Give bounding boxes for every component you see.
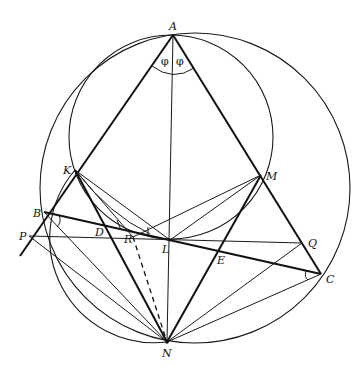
line-kn	[75, 170, 167, 342]
line-qn	[167, 243, 302, 342]
label-phi-right: φ	[176, 55, 184, 68]
line-bc	[44, 212, 321, 274]
line-bn	[44, 212, 167, 342]
angle-mark-b	[57, 215, 60, 227]
label-a: A	[168, 20, 177, 33]
label-q: Q	[308, 237, 317, 250]
label-c: C	[326, 273, 335, 286]
angle-mark-c	[305, 271, 308, 280]
line-ml	[170, 175, 261, 240]
label-b: B	[32, 207, 41, 220]
label-p: P	[18, 230, 27, 243]
line-am	[173, 35, 321, 274]
angle-mark-a	[152, 66, 194, 75]
point-l-dot	[169, 239, 172, 242]
geometry-figure: A K M B P D R L E Q C N φ φ	[0, 0, 362, 378]
label-m: M	[265, 170, 278, 183]
label-d: D	[94, 226, 104, 239]
label-phi-left: φ	[161, 55, 169, 68]
label-r: R	[123, 233, 132, 246]
line-an	[167, 35, 173, 342]
line-mn	[167, 175, 261, 342]
label-k: K	[62, 164, 72, 177]
line-mr	[133, 175, 261, 237]
label-n: N	[161, 347, 172, 360]
line-cn	[167, 274, 321, 342]
point-n-dot	[165, 340, 169, 344]
arc-k-l	[75, 170, 150, 234]
label-l: L	[161, 243, 169, 256]
label-e: E	[216, 254, 225, 267]
